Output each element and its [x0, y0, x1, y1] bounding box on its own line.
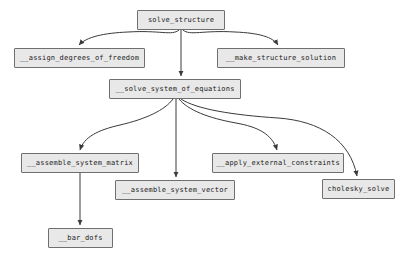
node-label: __solve_system_of_equations: [115, 86, 234, 93]
node-make-structure-solution[interactable]: __make_structure_solution: [217, 48, 345, 68]
edge-layer: [0, 0, 412, 257]
edge-solve-system-to-apply-constraints: [179, 99, 277, 150]
node-solve-structure[interactable]: solve_structure: [137, 10, 225, 30]
node-label: cholesky_solve: [328, 186, 390, 193]
node-assemble-system-matrix[interactable]: __assemble_system_matrix: [21, 153, 139, 173]
node-label: __assign_degrees_of_freedom: [20, 55, 139, 62]
node-cholesky-solve[interactable]: cholesky_solve: [322, 179, 395, 199]
edge-solve-structure-to-assign-dof: [79, 30, 179, 45]
node-assign-degrees-of-freedom[interactable]: __assign_degrees_of_freedom: [14, 48, 145, 68]
node-label: __bar_dofs: [58, 235, 102, 242]
edge-solve-system-to-assemble-matrix: [80, 99, 173, 150]
node-bar-dofs[interactable]: __bar_dofs: [48, 228, 113, 248]
node-label: __assemble_system_vector: [122, 187, 228, 194]
node-label: solve_structure: [148, 17, 214, 24]
call-graph-diagram: solve_structure __assign_degrees_of_free…: [0, 0, 412, 257]
node-label: __make_structure_solution: [226, 55, 336, 62]
node-apply-external-constraints[interactable]: __apply_external_constraints: [212, 153, 344, 173]
node-solve-system-of-equations[interactable]: __solve_system_of_equations: [109, 79, 241, 99]
node-label: __assemble_system_matrix: [27, 160, 133, 167]
node-assemble-system-vector[interactable]: __assemble_system_vector: [115, 180, 235, 200]
node-label: __apply_external_constraints: [216, 160, 340, 167]
edge-solve-structure-to-make-solution: [183, 30, 278, 45]
